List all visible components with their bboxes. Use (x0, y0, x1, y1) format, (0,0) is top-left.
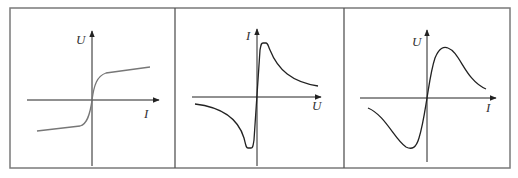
y-axis-label: U (76, 32, 87, 47)
y-axis-label: I (245, 28, 251, 43)
iv-curve (37, 67, 150, 131)
iv-characteristics-figure: U I I U U I (0, 0, 518, 178)
panel-3: U I (360, 30, 496, 162)
x-axis-label: I (485, 100, 491, 115)
panel-1: U I (27, 31, 159, 166)
y-axis-label: U (412, 34, 423, 49)
x-axis-label: U (312, 98, 323, 113)
x-axis-label: I (143, 106, 149, 121)
panel-2: I U (192, 28, 323, 166)
